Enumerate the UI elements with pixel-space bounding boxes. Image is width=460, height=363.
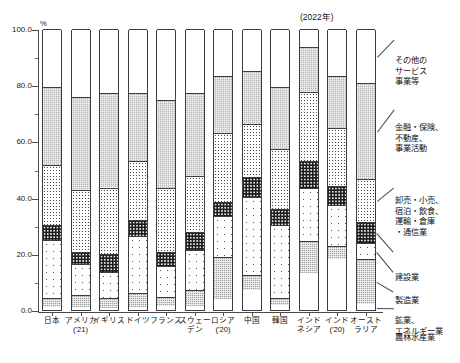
bar-segment-finance xyxy=(328,76,346,128)
bar-segment-mining xyxy=(328,246,346,259)
x-axis-tick xyxy=(138,312,139,316)
legend-item-manufacturing[interactable]: 製造業 xyxy=(395,296,419,307)
bar-segment-finance xyxy=(157,100,175,188)
y-axis-label: 20.0 xyxy=(0,251,32,259)
bar-segment-mining xyxy=(43,298,61,308)
bar-segment-mining xyxy=(243,275,261,290)
legend-item-construction[interactable]: 建設業 xyxy=(395,273,419,284)
plot-area xyxy=(38,30,380,311)
bar-segment-trade xyxy=(100,188,118,255)
bar-segment-agriculture xyxy=(357,304,375,310)
bar-segment-manufacturing xyxy=(357,243,375,260)
bar-segment-agriculture xyxy=(72,307,90,310)
stacked-bar[interactable] xyxy=(156,30,176,311)
legend-item-agriculture[interactable]: 農林水産業 xyxy=(395,333,435,344)
bar-segment-other xyxy=(300,29,318,47)
x-axis-tick xyxy=(195,312,196,316)
bar-segment-construction xyxy=(271,209,289,225)
legend-leader-line xyxy=(376,308,393,309)
bar-segment-trade xyxy=(300,92,318,161)
bar-segment-other xyxy=(129,29,147,93)
bar-segment-agriculture xyxy=(186,306,204,310)
bar-segment-manufacturing xyxy=(300,188,318,242)
bar-segment-finance xyxy=(300,47,318,92)
bar-segment-mining xyxy=(72,295,90,307)
bar-segment-finance xyxy=(243,71,261,124)
bar-segment-manufacturing xyxy=(43,240,61,297)
bar-segment-construction xyxy=(100,254,118,272)
bar-segment-manufacturing xyxy=(157,266,175,296)
bar-segment-manufacturing xyxy=(72,264,90,295)
bar-segment-trade xyxy=(43,165,61,224)
stacked-bar[interactable] xyxy=(299,30,319,311)
bar-segment-construction xyxy=(129,220,147,236)
bar-segment-construction xyxy=(300,161,318,187)
stacked-bar[interactable] xyxy=(356,30,376,311)
bar-segment-other xyxy=(100,29,118,93)
bar-segment-construction xyxy=(328,186,346,206)
stacked-bar[interactable] xyxy=(71,30,91,311)
bar-segment-other xyxy=(43,29,61,87)
bar-segment-finance xyxy=(271,87,289,149)
bar-segment-finance xyxy=(214,76,232,133)
legend-label-line: サービス xyxy=(395,67,427,78)
bar-segment-agriculture xyxy=(328,259,346,310)
x-axis-tick xyxy=(81,312,82,316)
bar-segment-trade xyxy=(72,190,90,252)
legend-label-line: 事業活動 xyxy=(395,144,443,155)
bar-segment-manufacturing xyxy=(328,205,346,245)
bar-segment-agriculture xyxy=(214,299,232,310)
legend-label-line: 建設業 xyxy=(395,273,419,284)
bar-segment-trade xyxy=(328,128,346,186)
legend-item-trade[interactable]: 卸売・小売、宿泊・飲食、運輸・倉庫・通信業 xyxy=(395,196,443,238)
stacked-bar[interactable] xyxy=(270,30,290,311)
bar-segment-agriculture xyxy=(271,305,289,310)
x-axis-tick xyxy=(337,312,338,316)
legend-item-other[interactable]: その他のサービス事業等 xyxy=(395,56,427,88)
bar-segment-other xyxy=(271,29,289,87)
bar-segment-construction xyxy=(357,222,375,243)
bar-segment-finance xyxy=(72,97,90,190)
legend-item-finance[interactable]: 金融・保険、不動産、事業活動 xyxy=(395,123,443,155)
legend-label-line: その他の xyxy=(395,56,427,67)
legend-label-line: 農林水産業 xyxy=(395,333,435,344)
bar-segment-finance xyxy=(43,87,61,165)
x-axis-tick xyxy=(252,312,253,316)
bar-segment-manufacturing xyxy=(186,250,204,290)
bar-segment-other xyxy=(157,29,175,100)
bar-segment-agriculture xyxy=(100,308,118,310)
x-axis-label-line: ('20) xyxy=(201,325,245,334)
stacked-bar[interactable] xyxy=(213,30,233,311)
bar-segment-trade xyxy=(271,149,289,209)
bar-segment-trade xyxy=(243,124,261,177)
legend-label-line: 卸売・小売、 xyxy=(395,196,443,207)
bar-segment-trade xyxy=(214,133,232,203)
bar-segment-manufacturing xyxy=(214,216,232,257)
legend-label-line: ・通信業 xyxy=(395,228,443,239)
bar-segment-mining xyxy=(300,241,318,273)
stacked-bar[interactable] xyxy=(242,30,262,311)
bar-segment-mining xyxy=(100,298,118,308)
bar-segment-finance xyxy=(129,93,147,161)
stacked-bar[interactable] xyxy=(185,30,205,311)
bar-segment-agriculture xyxy=(300,273,318,310)
x-axis-tick xyxy=(309,312,310,316)
bar-segment-trade xyxy=(129,161,147,220)
bar-segment-agriculture xyxy=(43,307,61,310)
x-axis-label-line: オースト xyxy=(344,316,388,325)
y-axis-label: 0.0 xyxy=(0,307,32,315)
bar-segment-other xyxy=(243,29,261,71)
legend-label-line: 運輸・倉庫 xyxy=(395,217,443,228)
bar-segment-mining xyxy=(157,297,175,306)
stacked-bar-chart: % (2022年) 100.080.060.040.020.00.0 日本アメリ… xyxy=(0,0,460,363)
bar-segment-mining xyxy=(214,257,232,299)
stacked-bar[interactable] xyxy=(99,30,119,311)
stacked-bar[interactable] xyxy=(42,30,62,311)
year-annotation: (2022年) xyxy=(300,13,334,22)
bar-segment-manufacturing xyxy=(271,225,289,298)
stacked-bar[interactable] xyxy=(128,30,148,311)
bar-segment-agriculture xyxy=(129,307,147,310)
x-axis-tick xyxy=(109,312,110,316)
bar-segment-construction xyxy=(186,232,204,250)
stacked-bar[interactable] xyxy=(327,30,347,311)
